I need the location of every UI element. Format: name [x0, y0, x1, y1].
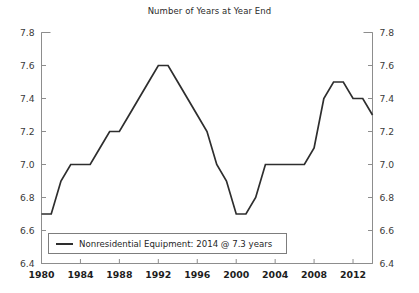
- chart-container: Number of Years at Year End 6.46.66.87.0…: [0, 0, 419, 293]
- svg-text:6.8: 6.8: [380, 192, 395, 203]
- svg-text:1984: 1984: [67, 269, 94, 280]
- series-line-0: [42, 66, 373, 215]
- svg-text:7.6: 7.6: [380, 60, 395, 71]
- x-axis: 198019841988199219962000200420082012: [28, 259, 372, 280]
- svg-text:2000: 2000: [223, 269, 250, 280]
- svg-text:1988: 1988: [106, 269, 132, 280]
- legend-entry-label: Nonresidential Equipment: 2014 @ 7.3 yea…: [79, 239, 272, 249]
- svg-text:6.8: 6.8: [20, 192, 35, 203]
- svg-text:7.6: 7.6: [20, 60, 35, 71]
- svg-text:7.4: 7.4: [380, 93, 395, 104]
- svg-text:7.0: 7.0: [20, 159, 35, 170]
- svg-text:7.2: 7.2: [380, 126, 395, 137]
- svg-text:1992: 1992: [145, 269, 171, 280]
- svg-text:7.4: 7.4: [20, 93, 35, 104]
- data-series-group: [42, 66, 373, 215]
- svg-text:7.8: 7.8: [20, 27, 35, 38]
- y-axis-left: 6.46.66.87.07.27.47.67.8: [20, 27, 51, 269]
- svg-text:6.6: 6.6: [380, 225, 395, 236]
- svg-text:6.4: 6.4: [20, 258, 35, 269]
- y-axis-right: 6.46.66.87.07.27.47.67.8: [364, 27, 395, 269]
- svg-text:1980: 1980: [28, 269, 55, 280]
- svg-text:6.4: 6.4: [380, 258, 395, 269]
- svg-text:7.0: 7.0: [380, 159, 395, 170]
- svg-text:2004: 2004: [262, 269, 289, 280]
- legend-line-swatch: [56, 243, 73, 245]
- svg-text:7.2: 7.2: [20, 126, 35, 137]
- svg-text:7.8: 7.8: [380, 27, 395, 38]
- svg-text:6.6: 6.6: [20, 225, 35, 236]
- svg-text:2008: 2008: [301, 269, 327, 280]
- chart-legend: Nonresidential Equipment: 2014 @ 7.3 yea…: [48, 233, 287, 254]
- svg-text:2012: 2012: [340, 269, 366, 280]
- svg-text:1996: 1996: [184, 269, 211, 280]
